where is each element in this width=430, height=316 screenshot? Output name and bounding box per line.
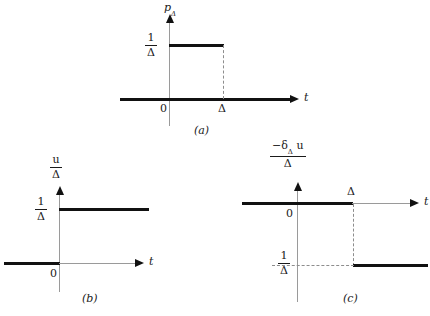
panel-c: −δΔ u Δ t Δ 0 1 Δ (c): [240, 140, 430, 316]
panel-b-zero-level-segment: [4, 262, 60, 265]
panel-a-yaxis-arrow-icon: [166, 14, 174, 23]
panel-a-vertical-axis: [169, 18, 170, 126]
panel-a-pulse-top-segment: [169, 44, 224, 47]
panel-a-tick-label-delta: Δ: [218, 103, 226, 114]
panel-c-yaxis-numerator: −δΔ u: [270, 140, 306, 155]
panel-a-xaxis-arrow-icon: [290, 95, 299, 103]
panel-a-origin-label: 0: [160, 103, 167, 114]
panel-b-value-label: 1 Δ: [35, 196, 47, 222]
panel-c-horizontal-axis: [352, 203, 414, 204]
panel-a-value-label: 1 Δ: [145, 32, 157, 58]
panel-b-xaxis-arrow-icon: [135, 259, 144, 267]
panel-b: u Δ t 1 Δ 0 (b): [2, 152, 192, 314]
panel-a: pΔ t 1 Δ 0 Δ (a): [118, 2, 318, 140]
panel-c-zero-level-segment: [242, 202, 353, 205]
panel-c-value-label: 1 Δ: [278, 250, 290, 276]
panel-a-dashed-drop-line: [223, 45, 224, 99]
panel-b-caption: (b): [82, 292, 98, 305]
panel-c-yaxis-arrow-icon: [294, 182, 302, 191]
panel-b-origin-label: 0: [50, 268, 57, 279]
panel-c-yaxis-label: −δΔ u Δ: [270, 140, 306, 169]
panel-c-tick-label-delta: Δ: [347, 186, 355, 197]
panel-c-negative-level-segment: [353, 264, 428, 267]
panel-b-yaxis-label: u Δ: [50, 154, 62, 180]
panel-b-horizontal-axis: [59, 263, 137, 264]
panel-b-xaxis-label: t: [149, 256, 153, 267]
panel-b-step-level-segment: [59, 208, 149, 211]
panel-a-xaxis-label: t: [304, 92, 308, 103]
panel-c-caption: (c): [343, 292, 358, 305]
panel-c-xaxis-label: t: [424, 196, 428, 207]
panel-c-dashed-drop-line: [353, 204, 354, 266]
figure-three-panel-pulse-step: pΔ t 1 Δ 0 Δ (a) u Δ: [0, 0, 430, 316]
panel-a-horizontal-axis: [120, 98, 292, 101]
panel-a-caption: (a): [194, 124, 209, 137]
panel-c-xaxis-arrow-icon: [410, 199, 419, 207]
panel-b-vertical-axis: [59, 190, 60, 292]
panel-b-yaxis-arrow-icon: [56, 186, 64, 195]
panel-c-origin-label: 0: [286, 208, 293, 219]
